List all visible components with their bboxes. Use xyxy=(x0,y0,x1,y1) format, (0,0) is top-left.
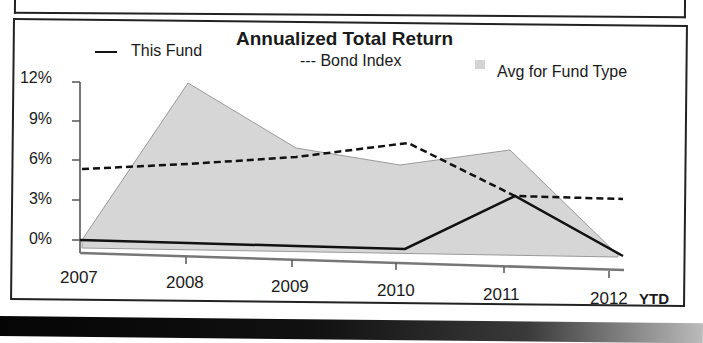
x-tick-label: 2008 xyxy=(166,273,204,293)
x-tick-label: 2010 xyxy=(377,281,415,301)
avg-fund-type-area xyxy=(82,83,618,257)
x-tick-label: 2011 xyxy=(483,285,520,305)
ytd-label: YTD xyxy=(639,290,669,307)
x-tick-label: 2012 xyxy=(590,289,628,309)
x-tick-label: 2009 xyxy=(271,277,309,297)
x-tick-label: 2007 xyxy=(60,268,98,288)
